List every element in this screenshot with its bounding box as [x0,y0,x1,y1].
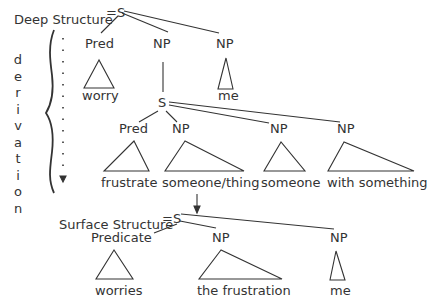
triangle-worry [84,60,114,88]
branch-ss-np2 [181,214,334,229]
triangle-someone [264,142,305,171]
triangle-with-something [328,142,414,171]
emb-np3-label: NP [337,122,355,136]
ss-leaf-worries: worries [95,284,142,298]
embedded-s-root: S [158,96,166,110]
surface-structure-root: =S [162,212,181,226]
derivation-brace [46,30,54,193]
ds-leaf-me: me [218,89,239,103]
deep-structure-root: =S [106,6,125,20]
ds-pred-label: Pred [85,37,114,51]
ss-leaf-me: me [330,284,351,298]
triangle-frustrate [104,141,149,171]
ds-leaf-worry: worry [82,89,119,103]
ss-np2-label: NP [330,231,348,245]
branch-ds-np2 [124,11,219,33]
triangle-worries [96,250,133,279]
ss-leaf-the-frustration: the frustration [197,284,291,298]
branch-s-np3 [169,102,340,122]
derivation-arrow-head [60,176,66,182]
triangle-me-deep [218,58,233,89]
derivation-letter: v [11,118,25,135]
ss-np1-label: NP [212,231,230,245]
triangle-someone-thing [165,141,244,171]
derivation-label: d e r i v a t i o n [11,52,25,217]
ds-np1-label: NP [153,37,171,51]
derivation-letter: a [11,135,25,152]
emb-np2-label: NP [270,122,288,136]
deep-structure-title: Deep Structure [14,13,113,27]
derivation-letter: t [11,151,25,168]
derivation-letter: i [11,168,25,185]
derivation-letter: o [11,184,25,201]
derivation-letter: e [11,69,25,86]
emb-leaf-frustrate: frustrate [101,176,157,190]
derivation-letter: n [11,201,25,218]
emb-pred-label: Pred [119,122,148,136]
derivation-arrow-head-2 [194,206,200,213]
triangle-me-surface [330,251,345,280]
emb-leaf-someone: someone [261,176,321,190]
emb-leaf-with-something: with something [327,176,428,190]
emb-leaf-someone-thing: someone/thing [162,176,259,190]
ds-np2-label: NP [216,37,234,51]
triangle-the-frustration [199,250,282,279]
ss-predicate-label: Predicate [91,231,152,245]
derivation-letter: d [11,52,25,69]
branch-ss-np1 [180,221,216,228]
derivation-letter: r [11,85,25,102]
emb-np1-label: NP [172,122,190,136]
derivation-letter: i [11,102,25,119]
